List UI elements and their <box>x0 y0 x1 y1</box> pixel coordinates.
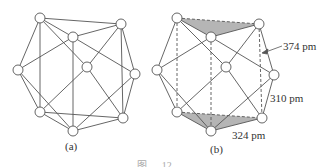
caption-a: (a) <box>65 140 77 152</box>
pointer-374 <box>262 46 282 54</box>
cluster-diagrams <box>0 0 321 167</box>
distance-label-374: 374 pm <box>283 40 316 52</box>
caption-b: (b) <box>210 143 223 155</box>
distance-label-310: 310 pm <box>270 92 303 104</box>
figure-caption: 图 … 12 … <box>0 157 321 167</box>
distance-label-324: 324 pm <box>232 129 265 141</box>
